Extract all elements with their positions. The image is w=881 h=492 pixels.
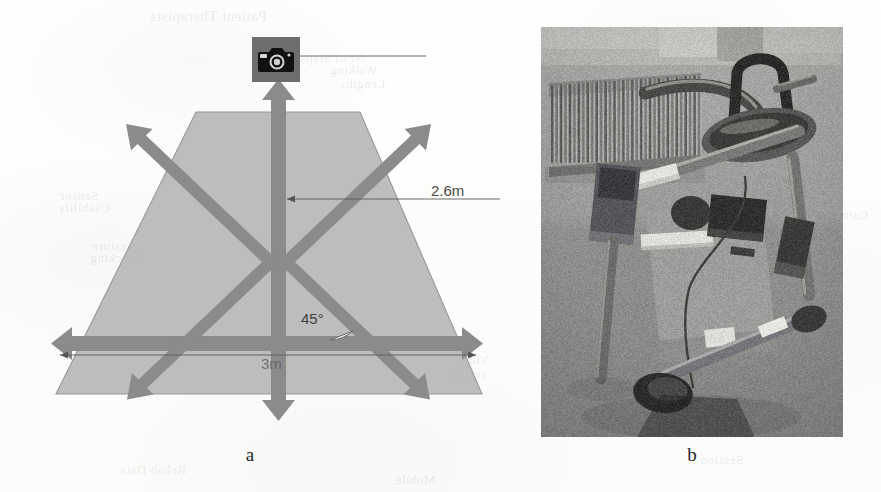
rollator-device-photo <box>541 27 843 437</box>
panel-caption-b: b <box>541 444 843 466</box>
angle-label: 45° <box>301 310 324 327</box>
height-dimension-label: 2.6m <box>431 182 464 199</box>
panel-caption-a: a <box>0 444 500 466</box>
camera-icon <box>252 37 300 82</box>
figure-panel-a: 2.6m 3m 45° a <box>0 0 500 492</box>
width-dimension-label: 3m <box>261 355 282 372</box>
camera-coverage-diagram <box>0 0 500 440</box>
figure-panel-b-photograph <box>541 27 843 437</box>
